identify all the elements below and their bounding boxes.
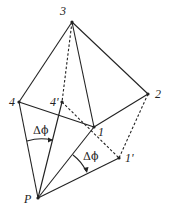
- angle-label-lower: Δϕ: [83, 150, 99, 163]
- rotation-diagram: 3 4 4' 2 1 1' P Δϕ Δϕ: [0, 0, 172, 213]
- edge-3-1: [72, 22, 94, 127]
- label-2: 2: [155, 87, 161, 101]
- label-3: 3: [59, 4, 66, 18]
- point-3: [70, 20, 73, 23]
- point-4p: [60, 100, 63, 103]
- label-4: 4: [9, 95, 15, 109]
- point-4: [17, 100, 20, 103]
- point-1: [92, 125, 95, 128]
- edge-P-4: [19, 102, 38, 198]
- point-1p: [117, 156, 120, 159]
- label-4p: 4': [50, 95, 59, 109]
- arrowhead-lower: [84, 167, 89, 173]
- label-1p: 1': [125, 151, 134, 165]
- edge-P-1p: [38, 158, 119, 198]
- angle-label-upper: Δϕ: [33, 124, 49, 137]
- label-P: P: [23, 192, 32, 206]
- edge-2-1p: [119, 94, 148, 158]
- label-1: 1: [98, 125, 104, 139]
- point-P: [36, 196, 39, 199]
- edge-1-2: [94, 94, 148, 127]
- edge-3-2: [72, 22, 148, 94]
- point-2: [146, 92, 149, 95]
